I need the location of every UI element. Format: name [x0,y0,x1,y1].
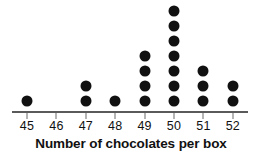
data-dot [169,96,180,107]
x-axis-tick-label: 47 [79,119,93,134]
x-axis-tick-label: 48 [108,119,122,134]
x-axis-caption: Number of chocolates per box [0,136,262,152]
x-axis-tick-label: 50 [167,119,181,134]
x-axis-line [12,111,248,113]
data-dot [227,81,238,92]
data-dot [169,51,180,62]
data-dot [227,96,238,107]
data-dot [22,96,33,107]
data-dot [80,96,91,107]
data-dot [139,81,150,92]
data-dot [139,66,150,77]
data-dot [169,66,180,77]
x-axis-tick-label: 52 [226,119,240,134]
data-dot [198,81,209,92]
dot-plot-chart: 4546474849505152 Number of chocolates pe… [0,0,262,156]
x-axis-tick-label: 46 [49,119,63,134]
plot-area [0,0,262,112]
data-dot [169,36,180,47]
data-dot [110,96,121,107]
data-dot [169,6,180,17]
data-dot [139,51,150,62]
data-dot [80,81,91,92]
data-dot [198,96,209,107]
x-axis-tick-label: 51 [196,119,210,134]
data-dot [139,96,150,107]
data-dot [169,21,180,32]
x-axis-tick-label: 49 [137,119,151,134]
data-dot [198,66,209,77]
x-axis-tick-label: 45 [20,119,34,134]
data-dot [169,81,180,92]
